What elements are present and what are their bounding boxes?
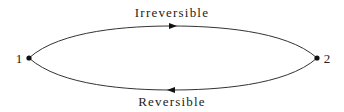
- irreversible-path: [29, 26, 317, 58]
- cycle-diagram: Irreversible Reversible 1 2: [0, 0, 344, 112]
- point-1-label: 1: [16, 51, 23, 66]
- state-point-2: [314, 55, 319, 60]
- point-2-label: 2: [324, 51, 331, 66]
- irreversible-label: Irreversible: [135, 5, 209, 20]
- state-point-1: [26, 55, 31, 60]
- arrow-left-icon: [167, 87, 175, 93]
- arrow-right-icon: [169, 23, 177, 29]
- reversible-label: Reversible: [138, 94, 206, 109]
- reversible-path: [29, 58, 317, 90]
